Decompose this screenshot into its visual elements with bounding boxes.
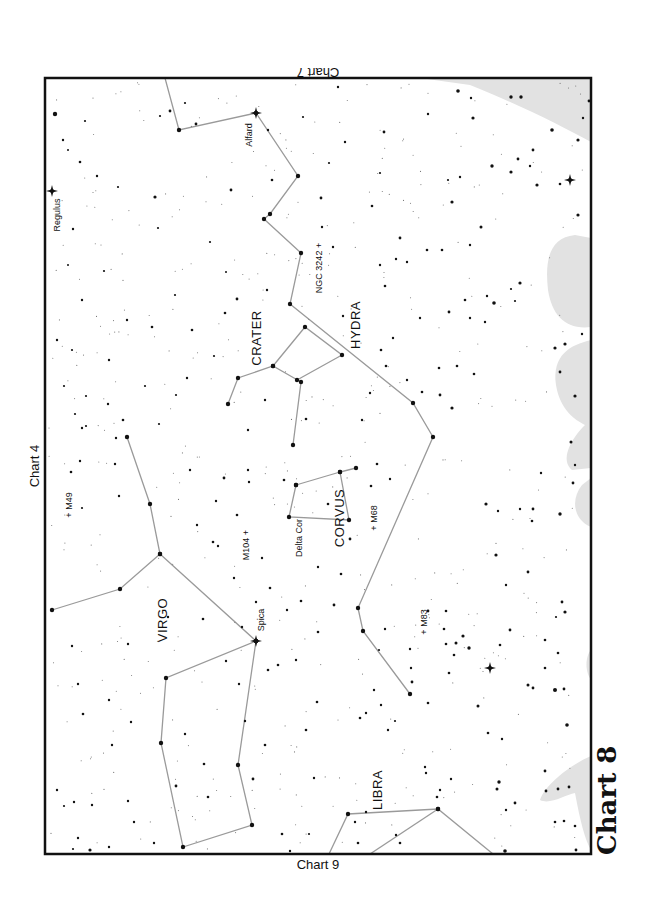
faint-star-dot — [273, 498, 274, 499]
star-dot — [544, 639, 547, 642]
star-dot — [439, 789, 441, 791]
constellation-label-virgo: VIRGO — [155, 598, 170, 642]
constellation-line — [165, 78, 433, 694]
faint-star-dot — [172, 309, 173, 310]
star-dot — [392, 337, 394, 339]
faint-star-dot — [311, 396, 312, 397]
faint-star-dot — [454, 792, 455, 793]
faint-star-dot — [131, 675, 132, 676]
faint-star-dot — [348, 517, 349, 518]
faint-star-dot — [122, 253, 123, 254]
faint-star-dot — [536, 612, 537, 613]
faint-star-dot — [410, 297, 411, 298]
star-dot — [247, 429, 249, 431]
faint-star-dot — [574, 837, 575, 838]
faint-star-dot — [405, 465, 406, 466]
faint-star-dot — [62, 346, 63, 347]
star-dot — [340, 573, 343, 576]
star-dot — [582, 117, 584, 119]
faint-star-dot — [304, 638, 305, 639]
faint-star-dot — [501, 814, 502, 815]
faint-star-dot — [443, 797, 444, 798]
star-dot — [575, 849, 578, 852]
faint-star-dot — [565, 753, 566, 754]
faint-star-dot — [192, 816, 193, 817]
star-dot — [288, 302, 292, 306]
faint-star-dot — [299, 274, 300, 275]
star-dot — [565, 723, 569, 727]
faint-star-dot — [498, 655, 499, 656]
faint-star-dot — [174, 650, 175, 651]
faint-star-dot — [495, 543, 496, 544]
star-dot — [62, 139, 64, 141]
faint-star-dot — [401, 87, 402, 88]
faint-star-dot — [263, 289, 264, 290]
faint-star-dot — [501, 845, 502, 846]
faint-star-dot — [182, 269, 183, 270]
star-dot — [56, 789, 58, 791]
faint-star-dot — [95, 243, 96, 244]
faint-star-dot — [572, 508, 573, 509]
star-dot — [81, 427, 83, 429]
star-dot — [484, 502, 487, 505]
star-dot — [50, 608, 54, 612]
faint-star-dot — [236, 95, 237, 96]
faint-star-dot — [442, 459, 443, 460]
faint-star-dot — [343, 335, 344, 336]
star-dot — [241, 626, 243, 628]
star-dot — [399, 237, 402, 240]
star-dot — [169, 110, 172, 113]
star-dot — [212, 541, 215, 544]
adjacent-chart-top-label[interactable]: Chart 7 — [297, 65, 340, 80]
star-dot — [450, 778, 452, 780]
faint-star-dot — [541, 171, 542, 172]
faint-star-dot — [98, 461, 99, 462]
star-dot — [573, 394, 576, 397]
faint-star-dot — [390, 719, 391, 720]
faint-star-dot — [479, 184, 480, 185]
star-dot — [406, 379, 408, 381]
faint-star-dot — [197, 352, 198, 353]
faint-star-dot — [288, 260, 289, 261]
faint-star-dot — [242, 274, 243, 275]
faint-star-dot — [369, 192, 370, 193]
faint-star-dot — [291, 419, 292, 420]
faint-star-dot — [383, 272, 384, 273]
faint-star-dot — [169, 350, 170, 351]
adjacent-chart-left-label[interactable]: Chart 4 — [27, 445, 42, 488]
faint-star-dot — [364, 589, 365, 590]
faint-star-dot — [286, 217, 287, 218]
star-dot — [236, 376, 240, 380]
faint-star-dot — [64, 463, 65, 464]
star-dot — [320, 197, 323, 200]
star-dot — [321, 226, 323, 228]
star-dot — [247, 469, 249, 471]
faint-star-dot — [420, 171, 421, 172]
faint-star-dot — [404, 749, 405, 750]
faint-star-dot — [185, 446, 186, 447]
faint-star-dot — [124, 659, 125, 660]
star-label-alfard: Alfard — [244, 123, 254, 147]
faint-star-dot — [327, 225, 328, 226]
faint-star-dot — [153, 687, 154, 688]
faint-star-dot — [388, 366, 389, 367]
star-dot — [554, 821, 557, 824]
faint-star-dot — [234, 622, 235, 623]
faint-star-dot — [218, 98, 219, 99]
star-dot — [527, 571, 530, 574]
faint-star-dot — [221, 204, 222, 205]
faint-star-dot — [452, 682, 453, 683]
faint-star-dot — [56, 99, 57, 100]
faint-star-dot — [139, 224, 140, 225]
star-dot — [332, 246, 334, 248]
faint-star-dot — [265, 473, 266, 474]
faint-star-dot — [389, 194, 390, 195]
faint-star-dot — [342, 842, 343, 843]
star-dot — [267, 129, 269, 131]
faint-star-dot — [472, 784, 473, 785]
star-dot — [115, 437, 117, 439]
faint-star-dot — [471, 296, 472, 297]
faint-star-dot — [347, 477, 348, 478]
adjacent-chart-bottom-label[interactable]: Chart 9 — [297, 857, 340, 872]
faint-star-dot — [262, 299, 263, 300]
